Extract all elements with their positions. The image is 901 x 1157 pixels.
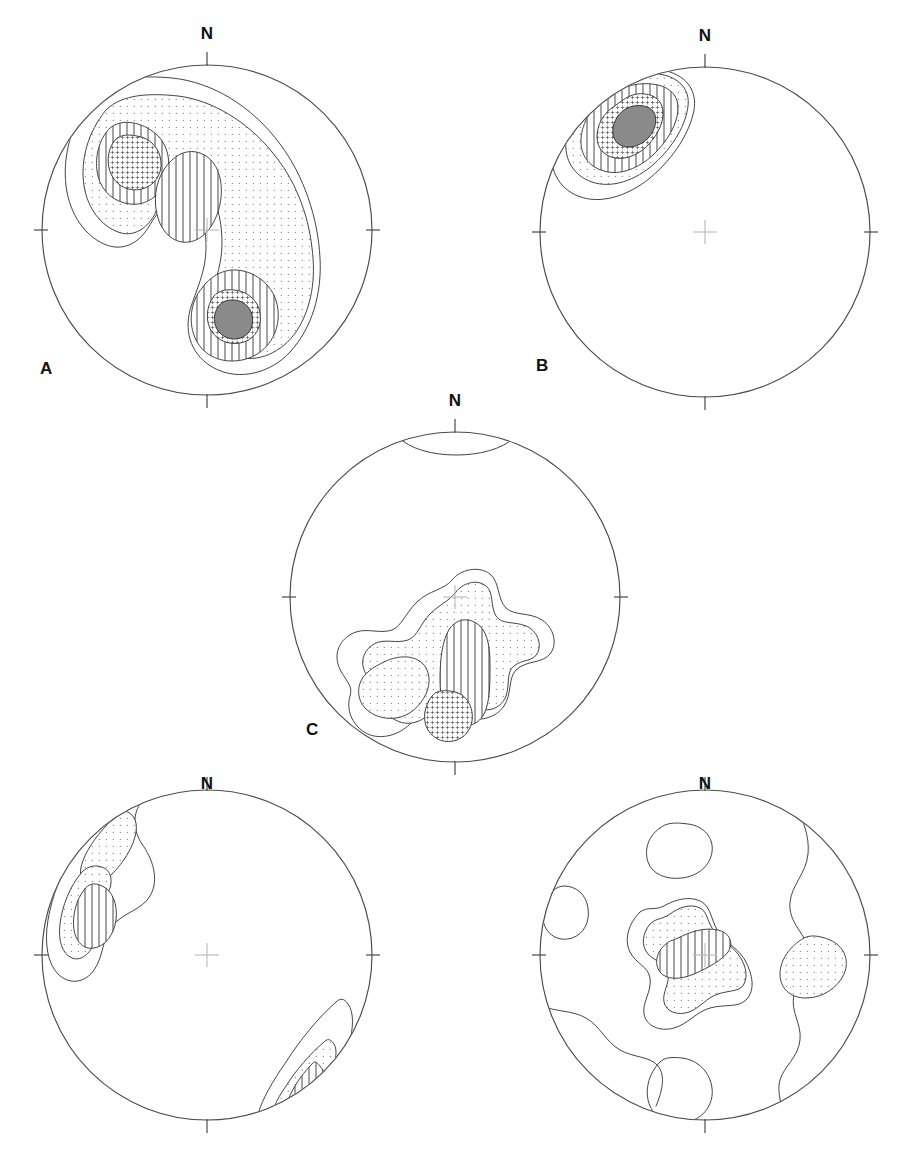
- panel-B: N B: [460, 0, 901, 420]
- contour-north-lobe-E: [647, 823, 713, 878]
- panel-D: N D: [0, 740, 420, 1157]
- contour-sw-band-E: [542, 1006, 662, 1106]
- panel-C: N C: [250, 380, 670, 800]
- contour-se-level-3-B: [810, 348, 856, 398]
- center-cross-D: [195, 943, 219, 967]
- north-label-A: N: [201, 25, 213, 42]
- contour-se-level-1-B: [780, 321, 867, 408]
- panel-letter-B: B: [536, 357, 548, 374]
- contour-east-lobe-level-2-E: [780, 936, 846, 998]
- contour-se-level-3-D: [284, 1062, 324, 1126]
- contour-north-sliver-C: [398, 437, 514, 455]
- panel-E: N E: [498, 740, 901, 1157]
- panel-letter-A: A: [40, 360, 52, 377]
- north-label-B: N: [699, 27, 711, 44]
- panel-A: N A: [0, 0, 420, 420]
- contour-level-4-C: [425, 691, 473, 742]
- panel-letter-C: C: [306, 721, 318, 738]
- stereonet-figure: N A: [0, 0, 901, 1157]
- north-label-C: N: [449, 392, 461, 409]
- contour-se-level-2-B: [795, 335, 862, 404]
- cluster-s-level-5-A: [214, 300, 252, 339]
- contour-west-lobe-E: [542, 886, 588, 939]
- north-label-D: N: [201, 775, 213, 792]
- center-cross-B: [693, 220, 717, 244]
- north-label-E: N: [699, 775, 711, 792]
